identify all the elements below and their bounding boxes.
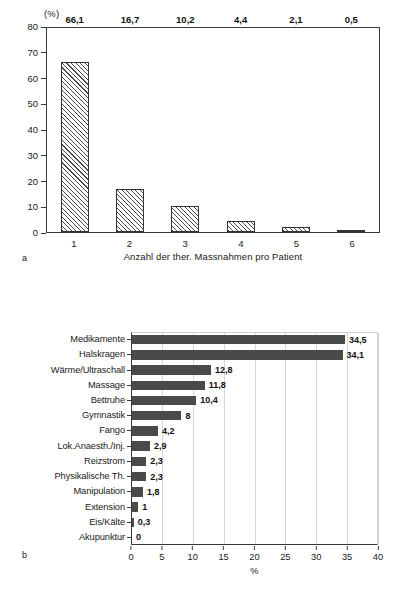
chart-a-container: (%) 01020304050607080 66,116,710,24,42,1… [0,0,406,270]
chart-b-x-tick: 40 [373,546,383,563]
chart-b-bar-item[interactable]: Medikamente34,5 [0,332,406,347]
chart-a-y-tick-label: 30 [27,150,38,161]
chart-b-x-axis-label: % [131,566,378,576]
chart-b-bar[interactable] [132,381,205,390]
chart-b-x-tick-mark [192,546,193,550]
chart-b-bar[interactable] [132,472,146,481]
chart-a-bar-value-label: 0,5 [345,14,358,25]
chart-a-bar-item[interactable]: 2,1 [272,28,320,232]
chart-b-x-tick-mark [378,546,379,550]
chart-b-bar[interactable] [132,335,345,344]
chart-b-bar-item[interactable]: Lok.Anaesth./Inj.2,9 [0,439,406,454]
chart-b-bar-track: 8 [132,408,379,423]
chart-b-bar-item[interactable]: Gymnastik8 [0,408,406,423]
chart-b-bar-value-label: 12,8 [215,365,233,375]
chart-b-bar-track: 10,4 [132,393,379,408]
chart-b-bar[interactable] [132,441,150,450]
chart-b-bar[interactable] [132,487,143,496]
chart-b-bar-item[interactable]: Bettruhe10,4 [0,393,406,408]
chart-a-y-tick-label: 60 [27,73,38,84]
chart-b-x-tick-mark [347,546,348,550]
chart-b-bar-item[interactable]: Halskragen34,1 [0,347,406,362]
chart-b-category-label: Extension [0,502,127,513]
chart-b-bar[interactable] [132,426,158,435]
chart-a-bar[interactable]: 10,2 [171,206,199,232]
chart-a-bar-value-label: 66,1 [65,14,84,25]
chart-b-bar[interactable] [132,396,196,405]
chart-b-category-label: Reizstrom [0,456,127,467]
chart-b-category-label: Manipulation [0,486,127,497]
chart-b-x-tick: 10 [188,546,198,563]
chart-a-x-axis-ticks: 123456 [46,233,380,253]
chart-b-bar-value-label: 0 [136,532,141,542]
chart-b-bar[interactable] [132,502,138,511]
chart-b-bar-item[interactable]: Wärme/Ultraschall12,8 [0,362,406,377]
chart-b-category-label: Akupunktur [0,532,127,543]
chart-b-category-label: Fango [0,425,127,436]
chart-b-bar-item[interactable]: Reizstrom2,3 [0,454,406,469]
chart-b-bar-track: 0 [132,530,379,545]
chart-a-x-tick-label: 6 [328,233,377,253]
chart-b-x-tick: 35 [342,546,352,563]
chart-b-bar-track: 0,3 [132,515,379,530]
chart-a-y-tick-label: 20 [27,176,38,187]
chart-a-bar-item[interactable]: 10,2 [161,28,209,232]
chart-a-bar-value-label: 16,7 [121,14,140,25]
chart-b-bar-track: 34,1 [132,347,379,362]
chart-a-bar[interactable]: 4,4 [227,221,255,232]
chart-a-x-tick-label: 2 [105,233,154,253]
chart-b-bar-item[interactable]: Eis/Kälte0,3 [0,515,406,530]
chart-b-bar-track: 34,5 [132,332,379,347]
chart-a-x-tick-label: 4 [216,233,265,253]
chart-b-category-label: Eis/Kälte [0,517,127,528]
chart-b-category-label: Physikalische Th. [0,471,127,482]
chart-b-bar-group: Medikamente34,5Halskragen34,1Wärme/Ultra… [0,332,406,545]
chart-a-bar-group: 66,116,710,24,42,10,5 [47,28,379,232]
chart-a-bar[interactable]: 0,5 [337,230,365,232]
chart-a-bar-item[interactable]: 16,7 [106,28,154,232]
chart-b-x-tick-label: 5 [159,552,164,563]
chart-b-bar-value-label: 1,8 [147,487,160,497]
chart-b-bar-value-label: 0,3 [138,517,151,527]
chart-a-bar[interactable]: 16,7 [116,189,144,232]
chart-b-category-label: Halskragen [0,349,127,360]
chart-a-y-tick-label: 40 [27,124,38,135]
chart-b-bar-item[interactable]: Extension1 [0,499,406,514]
chart-b-x-tick-label: 25 [280,552,290,563]
chart-a-x-axis-label: Anzahl der ther. Massnahmen pro Patient [46,251,380,262]
chart-b-category-label: Bettruhe [0,395,127,406]
chart-b-bar-item[interactable]: Akupunktur0 [0,530,406,545]
chart-b-bar-track: 4,2 [132,423,379,438]
chart-b-container: Medikamente34,5Halskragen34,1Wärme/Ultra… [0,300,406,591]
chart-b-bar-item[interactable]: Massage11,8 [0,378,406,393]
chart-b-category-label: Lok.Anaesth./Inj. [0,441,127,452]
chart-b-bar-item[interactable]: Fango4,2 [0,423,406,438]
chart-a-bar-value-label: 4,4 [234,14,247,25]
chart-b-bar[interactable] [132,365,211,374]
chart-b-bar-value-label: 11,8 [209,380,226,390]
chart-b-bar[interactable] [132,518,134,527]
chart-a-bar[interactable]: 66,1 [61,62,89,232]
chart-b-bar[interactable] [132,350,343,359]
chart-b-category-label: Wärme/Ultraschall [0,365,127,376]
chart-b-bar-value-label: 1 [142,502,147,512]
chart-b-x-tick-mark [161,546,162,550]
chart-a-bar-item[interactable]: 0,5 [327,28,375,232]
chart-b-bar-value-label: 34,1 [347,350,365,360]
chart-b-bar-track: 11,8 [132,378,379,393]
chart-a-y-tick-label: 10 [27,201,38,212]
chart-b-x-tick-mark [285,546,286,550]
chart-b-bar[interactable] [132,411,181,420]
chart-b-bar-track: 1 [132,499,379,514]
chart-b-bar-item[interactable]: Manipulation1,8 [0,484,406,499]
chart-a-x-tick-label: 3 [161,233,210,253]
chart-b-x-tick-label: 30 [311,552,321,563]
chart-b-bar[interactable] [132,457,146,466]
chart-a-bar[interactable]: 2,1 [282,227,310,232]
chart-b-x-tick-mark [316,546,317,550]
chart-b-x-tick-label: 35 [342,552,352,563]
chart-a-bar-item[interactable]: 66,1 [50,28,98,232]
chart-b-bar-item[interactable]: Physikalische Th.2,3 [0,469,406,484]
chart-b-bar-value-label: 2,3 [150,472,163,482]
chart-a-bar-item[interactable]: 4,4 [216,28,264,232]
